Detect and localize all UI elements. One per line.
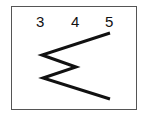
zigzag-line bbox=[0, 0, 147, 121]
